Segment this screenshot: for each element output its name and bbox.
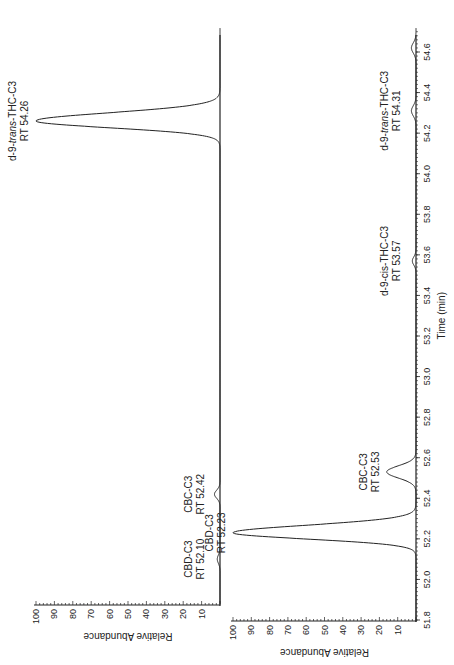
time-tick-label: 53.6 xyxy=(422,246,432,264)
abundance-tick-label: 80 xyxy=(265,625,275,635)
time-tick-label: 53.8 xyxy=(422,206,432,224)
abundance-tick-label: 20 xyxy=(178,609,188,619)
y-axis-label: Relative Abundance xyxy=(83,631,172,642)
peak-annotation: d-9-trans-THC-C3RT 54.26 xyxy=(7,81,30,161)
peak-compound-label: d-9-cis-THC-C3 xyxy=(379,226,390,296)
peak-compound-label: CBC-C3 xyxy=(183,475,194,513)
compound-prefix: d-9- xyxy=(7,143,18,161)
peak-annotation: CBC-C3RT 52.42 xyxy=(183,473,206,514)
abundance-tick-label: 10 xyxy=(197,609,207,619)
abundance-tick-label: 50 xyxy=(320,625,330,635)
time-tick-label: 51.8 xyxy=(422,611,432,629)
time-tick-label: 54.0 xyxy=(422,165,432,183)
time-tick-label: 54.6 xyxy=(422,43,432,61)
peak-rt-label: RT 52.53 xyxy=(370,451,381,492)
y-axis-label: Relative Abundance xyxy=(280,647,369,658)
abundance-tick-label: 10 xyxy=(393,625,403,635)
compound-prefix: d-9- xyxy=(379,133,390,151)
compound-isomer: trans xyxy=(7,121,18,143)
compound-isomer: trans xyxy=(379,111,390,133)
abundance-tick-label: 100 xyxy=(228,625,238,640)
time-tick-label: 53.0 xyxy=(422,368,432,386)
peak-compound-label: d-9-trans-THC-C3 xyxy=(379,70,390,150)
abundance-tick-label: 20 xyxy=(374,625,384,635)
abundance-tick-label: 60 xyxy=(105,609,115,619)
time-tick-label: 54.4 xyxy=(422,84,432,102)
abundance-tick-label: 90 xyxy=(246,625,256,635)
peak-compound-label: CBD-C3 xyxy=(183,540,194,578)
abundance-tick-label: 40 xyxy=(141,609,151,619)
compound-suffix: -THC-C3 xyxy=(379,70,390,110)
abundance-tick-label: 30 xyxy=(160,609,170,619)
time-tick-label: 52.8 xyxy=(422,408,432,426)
peak-rt-label: RT 52.23 xyxy=(216,512,227,553)
time-tick-label: 53.2 xyxy=(422,327,432,345)
abundance-tick-label: 70 xyxy=(86,609,96,619)
abundance-tick-label: 100 xyxy=(31,609,41,624)
abundance-tick-label: 80 xyxy=(68,609,78,619)
time-tick-label: 54.2 xyxy=(422,124,432,142)
chromatogram-trace xyxy=(36,28,220,604)
abundance-tick-label: 50 xyxy=(123,609,133,619)
compound-suffix: -THC-C3 xyxy=(7,81,18,121)
peak-annotation: d-9-trans-THC-C3RT 54.31 xyxy=(379,70,402,150)
peak-annotation: CBD-C3RT 52.10 xyxy=(183,538,206,579)
peak-annotation: CBD-C3RT 52.23 xyxy=(204,512,227,553)
peak-compound-label: CBD-C3 xyxy=(204,514,215,552)
peak-annotation: d-9-cis-THC-C3RT 53.57 xyxy=(379,226,402,296)
time-tick-label: 52.0 xyxy=(422,571,432,589)
abundance-tick-label: 90 xyxy=(49,609,59,619)
time-tick-label: 52.2 xyxy=(422,530,432,548)
clipped-caption-strip xyxy=(446,0,454,665)
peak-rt-label: RT 54.31 xyxy=(391,90,402,131)
peak-rt-label: RT 54.26 xyxy=(19,100,30,141)
time-tick-label: 52.4 xyxy=(422,490,432,508)
time-tick-label: 52.6 xyxy=(422,449,432,467)
peak-compound-label: d-9-trans-THC-C3 xyxy=(7,81,18,161)
time-tick-label: 53.4 xyxy=(422,287,432,305)
abundance-tick-label: 70 xyxy=(283,625,293,635)
peak-rt-label: RT 52.42 xyxy=(195,473,206,514)
top-chromatogram-panel: 102030405060708090100Relative AbundanceC… xyxy=(7,28,220,642)
bottom-chromatogram-panel: 102030405060708090100Relative Abundance5… xyxy=(204,28,447,658)
abundance-tick-label: 40 xyxy=(338,625,348,635)
peak-rt-label: RT 53.57 xyxy=(391,240,402,281)
abundance-tick-label: 60 xyxy=(301,625,311,635)
chromatogram-figure: 102030405060708090100Relative AbundanceC… xyxy=(0,0,454,665)
abundance-tick-label: 30 xyxy=(356,625,366,635)
peak-annotation: CBC-C3RT 52.53 xyxy=(358,451,381,492)
peak-compound-label: CBC-C3 xyxy=(358,453,369,491)
